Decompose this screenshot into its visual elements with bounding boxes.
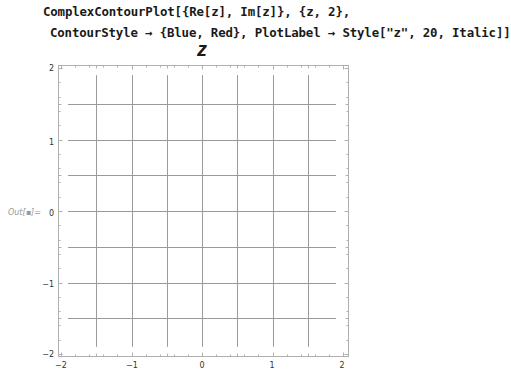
x-tick-label: 1 <box>269 361 274 370</box>
x-tick-label: −1 <box>126 361 138 370</box>
y-tick-label: 2 <box>49 64 54 73</box>
y-axis-tick-labels: 2 1 0 −1 −2 <box>42 64 54 359</box>
x-tick-label: −2 <box>55 361 67 370</box>
contour-lines <box>68 75 336 347</box>
x-tick-label: 0 <box>199 361 204 370</box>
x-axis-tick-labels: −2 −1 0 1 2 <box>55 361 344 370</box>
y-tick-label: 0 <box>49 209 54 218</box>
x-tick-label: 2 <box>339 361 344 370</box>
y-tick-label: 1 <box>49 138 54 147</box>
y-tick-label: −1 <box>42 280 54 289</box>
y-tick-label: −2 <box>42 350 54 359</box>
